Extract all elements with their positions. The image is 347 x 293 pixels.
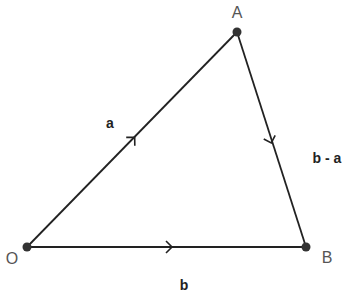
vector-triangle-diagram: O A B a b - a b (0, 0, 347, 293)
vector-label-b: b (180, 277, 189, 293)
point-b (302, 243, 311, 252)
point-label-a: A (232, 4, 243, 21)
point-a (233, 28, 242, 37)
point-label-o: O (6, 250, 18, 267)
vector-label-a: a (106, 115, 114, 131)
point-o (23, 243, 32, 252)
edge-ab (237, 32, 306, 247)
vector-label-b-minus-a: b - a (313, 150, 342, 166)
point-label-b: B (322, 249, 333, 266)
edge-oa (27, 32, 237, 247)
